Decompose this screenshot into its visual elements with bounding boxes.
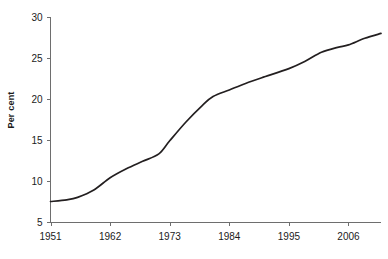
y-tick-label: 20 [31,94,43,105]
x-axis-ticks: 195119621973198419952006 [39,222,360,242]
x-tick-label: 1995 [278,231,301,242]
x-tick-label: 2006 [337,231,360,242]
chart-plot-area: 51015202530 195119621973198419952006 [0,0,388,259]
y-tick-label: 25 [31,53,43,64]
y-tick-label: 15 [31,135,43,146]
y-tick-label: 30 [31,12,43,23]
x-tick-label: 1984 [218,231,241,242]
data-series-line [51,33,382,201]
y-axis-ticks: 51015202530 [31,12,50,228]
x-tick-label: 1973 [159,231,182,242]
x-tick-label: 1962 [99,231,122,242]
y-tick-label: 10 [31,176,43,187]
y-tick-label: 5 [37,217,43,228]
x-tick-label: 1951 [39,231,62,242]
line-chart: 51015202530 195119621973198419952006 Per… [0,0,388,259]
